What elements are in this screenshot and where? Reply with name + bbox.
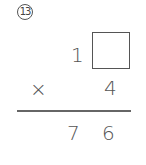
sum-line [17, 110, 131, 112]
multiplier-digit: 4 [104, 78, 117, 98]
multiplicand-tens-digit: 1 [71, 45, 84, 65]
product-tens-digit: 7 [67, 123, 80, 143]
multiply-sign: × [30, 79, 47, 99]
product-ones-digit: 6 [102, 123, 115, 143]
answer-box[interactable] [92, 32, 130, 69]
problem-number: 13 [17, 4, 33, 20]
